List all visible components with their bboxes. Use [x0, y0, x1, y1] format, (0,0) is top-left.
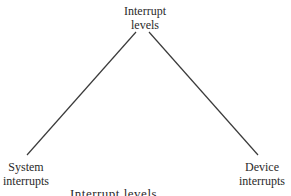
node-label-line1: Device: [233, 160, 291, 174]
figure-caption: Interrupt levels: [70, 186, 157, 196]
node-label-line1: Interrupt: [115, 4, 175, 18]
node-label-line2: levels: [115, 18, 175, 32]
node-device-interrupts: Device interrupts: [233, 160, 291, 188]
node-system-interrupts: System interrupts: [0, 160, 54, 188]
node-label-line2: interrupts: [233, 174, 291, 188]
node-label-line1: System: [0, 160, 54, 174]
node-interrupt-levels: Interrupt levels: [115, 4, 175, 32]
edge-root-to-system: [27, 32, 136, 155]
node-label-line2: interrupts: [0, 174, 54, 188]
edge-root-to-device: [149, 32, 258, 155]
